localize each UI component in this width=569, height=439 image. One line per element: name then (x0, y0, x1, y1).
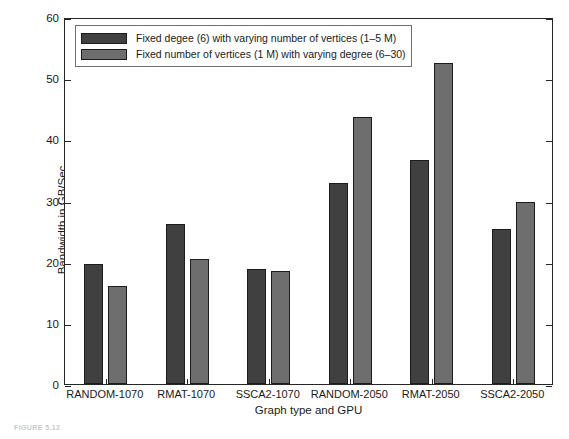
x-tick-label-rmat-2050: RMAT-2050 (402, 388, 460, 400)
y-tick-60 (65, 19, 71, 20)
y-tick-right-10 (546, 325, 552, 326)
y-tick-right-40 (546, 141, 552, 142)
x-tick-ssca2-2050 (513, 379, 514, 384)
y-tick-label-0: 0 (53, 380, 59, 392)
y-tick-right-30 (546, 203, 552, 204)
legend-label-series-1: Fixed number of vertices (1 M) with vary… (136, 48, 406, 60)
bar-random-2050-series-1 (353, 117, 372, 384)
bar-ssca2-1070-series-1 (271, 271, 290, 384)
x-tick-label-random-1070: RANDOM-1070 (66, 388, 143, 400)
bar-rmat-2050-series-0 (410, 160, 429, 384)
x-tick-label-ssca2-2050: SSCA2-2050 (480, 388, 544, 400)
bar-ssca2-2050-series-0 (492, 229, 511, 384)
y-tick-right-50 (546, 80, 552, 81)
x-tick-label-random-2050: RANDOM-2050 (311, 388, 388, 400)
y-tick-50 (65, 80, 71, 81)
y-tick-10 (65, 325, 71, 326)
legend-label-series-0: Fixed degee (6) with varying number of v… (136, 32, 396, 44)
y-tick-label-30: 30 (46, 197, 59, 209)
y-tick-label-40: 40 (46, 136, 59, 148)
legend-entry-series-1: Fixed number of vertices (1 M) with vary… (81, 46, 406, 62)
bar-random-2050-series-0 (329, 183, 348, 384)
figure-container: Bandwidth in GB/Sec 0102030405060 Graph … (0, 0, 569, 439)
y-tick-0 (65, 386, 71, 387)
x-tick-random-1070 (106, 379, 107, 384)
y-tick-30 (65, 203, 71, 204)
bar-ssca2-2050-series-1 (516, 202, 535, 384)
bar-random-1070-series-1 (108, 286, 127, 384)
legend-swatch-series-0 (81, 33, 127, 44)
plot-area: 0102030405060 (64, 18, 553, 385)
y-tick-right-20 (546, 264, 552, 265)
bar-ssca2-1070-series-0 (247, 269, 266, 384)
y-tick-label-50: 50 (46, 74, 59, 86)
legend-entry-series-0: Fixed degee (6) with varying number of v… (81, 30, 406, 46)
y-tick-right-0 (546, 386, 552, 387)
y-tick-label-10: 10 (46, 319, 59, 331)
y-tick-40 (65, 141, 71, 142)
x-tick-label-rmat-1070: RMAT-1070 (157, 388, 215, 400)
x-tick-rmat-2050 (432, 379, 433, 384)
y-tick-label-20: 20 (46, 258, 59, 270)
figure-caption: FIGURE 5.12 (14, 424, 60, 431)
x-tick-random-2050 (350, 379, 351, 384)
y-tick-label-60: 60 (46, 13, 59, 25)
y-tick-right-60 (546, 19, 552, 20)
x-axis-title: Graph type and GPU (64, 404, 553, 416)
legend-swatch-series-1 (81, 49, 127, 60)
chart-legend: Fixed degee (6) with varying number of v… (75, 25, 412, 67)
x-tick-rmat-1070 (187, 379, 188, 384)
bar-rmat-1070-series-1 (190, 259, 209, 384)
x-tick-ssca2-1070 (269, 379, 270, 384)
y-tick-20 (65, 264, 71, 265)
bar-rmat-2050-series-1 (434, 63, 453, 384)
bar-rmat-1070-series-0 (166, 224, 185, 384)
bar-random-1070-series-0 (84, 264, 103, 384)
x-tick-label-ssca2-1070: SSCA2-1070 (236, 388, 300, 400)
